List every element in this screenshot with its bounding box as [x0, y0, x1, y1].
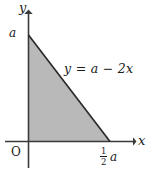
- fraction-numerator: 1: [100, 147, 107, 156]
- x-intercept-variable: a: [110, 151, 117, 163]
- line-equation-label: y = a − 2x: [64, 63, 133, 76]
- figure-canvas: y x a O y = a − 2x 1 2 a: [0, 0, 152, 176]
- x-axis-arrowhead-icon: [133, 137, 137, 146]
- x-axis-label: x: [138, 134, 145, 147]
- origin-label: O: [11, 146, 21, 158]
- y-intercept-label-a: a: [9, 27, 16, 39]
- x-intercept-label-half-a: 1 2 a: [100, 147, 117, 167]
- fraction-denominator: 2: [100, 158, 107, 167]
- fraction-one-half: 1 2: [100, 147, 107, 167]
- triangle-region-plot: [0, 0, 152, 176]
- y-axis-label: y: [19, 1, 26, 14]
